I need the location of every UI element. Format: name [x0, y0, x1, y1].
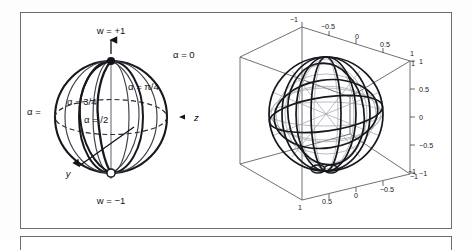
tick-right-5: −1 — [419, 169, 427, 178]
tick-top-5: 1 — [410, 49, 414, 58]
label-w-minus-one: w = −1 — [96, 195, 126, 206]
pole-bottom-marker — [107, 169, 115, 177]
tick-right-4: −0.5 — [419, 141, 433, 150]
label-alpha-pi-over-4: α = π/4 — [128, 81, 159, 92]
z-axis-arrowhead — [179, 115, 185, 120]
corner-label-bottom-right: −1 — [408, 167, 416, 176]
label-axis-y: y — [65, 168, 72, 179]
label-alpha-half: α = /2 — [84, 114, 108, 125]
tick-bottom-3: 0 — [354, 191, 358, 200]
tick-right-1: 1 — [419, 57, 423, 66]
pole-top-marker — [107, 57, 115, 65]
label-axis-z: z — [193, 112, 199, 123]
axis-right-ticks — [410, 61, 415, 173]
tick-bottom-1: 1 — [298, 203, 302, 212]
tick-bottom-2: 0.5 — [322, 197, 332, 206]
label-alpha-blank: α = — [27, 106, 41, 117]
label-alpha-0: α = 0 — [173, 49, 195, 60]
panel-bloch-sphere: w = +1 w = −1 y z α = 0 α = π/4 α = 3/4 … — [22, 14, 232, 227]
panel-wireframe-sphere: −1 −0.5 0 0.5 1 1 0.5 0 −0.5 −1 — [232, 14, 450, 227]
tick-top-4: 0.5 — [380, 40, 390, 49]
tick-bottom-4: −0.5 — [380, 185, 394, 194]
tick-right-2: 0.5 — [419, 85, 429, 94]
figure-secondary-frame — [20, 236, 452, 250]
tick-top-3: 0 — [355, 32, 359, 41]
corner-label-top-right: 1 — [411, 59, 415, 68]
tick-right-3: 0 — [419, 113, 423, 122]
label-alpha-three-quarters: α = 3/4 — [67, 96, 97, 107]
tick-top-2: −0.5 — [321, 22, 335, 31]
tick-top-1: −1 — [290, 15, 298, 24]
label-w-plus-one: w = +1 — [96, 25, 126, 36]
